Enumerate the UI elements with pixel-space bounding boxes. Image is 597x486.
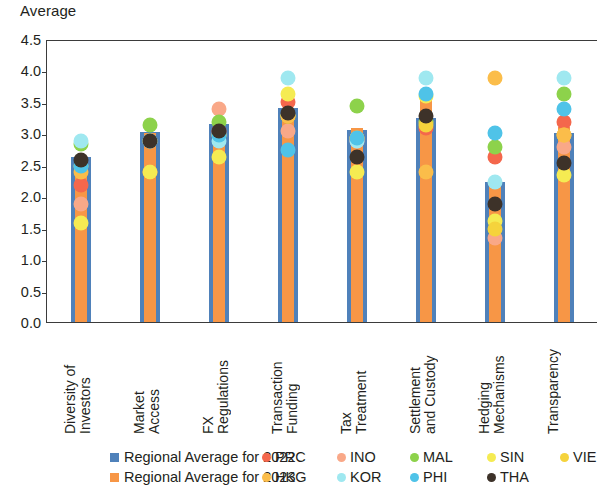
data-point-hkg — [556, 127, 571, 142]
data-point-tha — [74, 152, 89, 167]
y-axis-tick-label: 1.0 — [1, 252, 41, 268]
x-axis-category-label: FX Regulations — [201, 330, 231, 434]
legend-item-tha[interactable]: THA — [487, 469, 529, 485]
legend-item-kor[interactable]: KOR — [337, 469, 381, 485]
bar-regional-average-2023 — [144, 133, 156, 322]
legend-swatch-icon — [262, 473, 271, 482]
x-axis-category-label: Tax Treatment — [339, 330, 369, 434]
legend-item-label: MAL — [423, 449, 453, 465]
legend-swatch-icon — [487, 453, 496, 462]
y-axis-tick-mark — [42, 261, 47, 262]
legend-item-hkg[interactable]: HKG — [262, 469, 306, 485]
category-group — [185, 41, 254, 322]
y-axis-tick-mark — [42, 72, 47, 73]
data-point-sin — [281, 86, 296, 101]
y-axis-title: Average — [20, 2, 76, 19]
y-axis-tick-label: 0.0 — [1, 315, 41, 331]
y-axis-tick-label: 3.0 — [1, 126, 41, 142]
data-point-kor — [74, 133, 89, 148]
legend-item-label: SIN — [500, 449, 524, 465]
bar-regional-average-2023 — [282, 108, 294, 322]
y-axis-tick-label: 2.0 — [1, 189, 41, 205]
data-point-hkg — [487, 70, 502, 85]
data-point-tha — [212, 124, 227, 139]
legend-swatch-icon — [410, 473, 419, 482]
data-point-tha — [143, 133, 158, 148]
plot-inner — [47, 41, 597, 322]
data-point-mal — [349, 99, 364, 114]
category-group — [323, 41, 392, 322]
x-axis-category-label: Transaction Funding — [270, 330, 300, 434]
y-axis-tick-label: 0.5 — [1, 284, 41, 300]
data-point-phi — [418, 86, 433, 101]
plot-area — [46, 40, 597, 323]
y-axis-tick-label: 1.5 — [1, 221, 41, 237]
legend-item-vie[interactable]: VIE — [560, 449, 596, 465]
y-axis-tick-label: 4.5 — [1, 32, 41, 48]
y-axis-tick-mark — [42, 167, 47, 168]
legend-swatch-icon — [337, 473, 346, 482]
y-axis-tick-mark — [42, 198, 47, 199]
data-point-kor — [556, 70, 571, 85]
data-point-mal — [487, 140, 502, 155]
legend-item-sin[interactable]: SIN — [487, 449, 524, 465]
x-axis-category-label: Market Access — [132, 330, 162, 434]
legend-item-label: INO — [350, 449, 376, 465]
data-point-kor — [487, 174, 502, 189]
data-point-sin — [143, 165, 158, 180]
x-axis-category-label: Hedging Mechanisms — [477, 330, 507, 434]
data-point-hkg — [418, 165, 433, 180]
data-point-tha — [281, 105, 296, 120]
x-axis-category-label: Settlement and Custody — [408, 330, 438, 434]
data-point-ino — [281, 124, 296, 139]
y-axis-tick-mark — [42, 135, 47, 136]
data-point-tha — [556, 155, 571, 170]
legend-item-phi[interactable]: PHI — [410, 469, 447, 485]
data-point-tha — [349, 149, 364, 164]
legend-swatch-icon — [262, 453, 271, 462]
y-axis-tick-mark — [42, 104, 47, 105]
data-point-sin — [349, 165, 364, 180]
y-axis-tick-label: 2.5 — [1, 158, 41, 174]
legend-swatch-icon — [337, 453, 346, 462]
data-point-phi — [349, 130, 364, 145]
data-point-sin — [212, 149, 227, 164]
data-point-sin — [74, 215, 89, 230]
chart-legend: Regional Average for 2022PRCINOMALSINVIE… — [0, 447, 597, 486]
average-scores-bar-chart: Average Diversity of InvestorsMarket Acc… — [0, 0, 597, 486]
data-point-tha — [418, 108, 433, 123]
data-point-mal — [556, 86, 571, 101]
data-point-phi — [556, 102, 571, 117]
y-axis-tick-label: 4.0 — [1, 63, 41, 79]
data-point-mal — [143, 118, 158, 133]
data-point-ino — [74, 196, 89, 211]
category-group — [116, 41, 185, 322]
legend-item-label: VIE — [573, 449, 596, 465]
data-point-vie — [487, 221, 502, 236]
legend-item-label: HKG — [275, 469, 306, 485]
legend-swatch-icon — [487, 473, 496, 482]
y-axis-tick-mark — [42, 293, 47, 294]
data-point-kor — [281, 70, 296, 85]
data-point-phi — [487, 126, 502, 141]
x-axis-category-label: Diversity of Investors — [63, 330, 93, 434]
y-axis-tick-mark — [42, 230, 47, 231]
legend-item-ino[interactable]: INO — [337, 449, 376, 465]
legend-swatch-icon — [110, 473, 119, 482]
legend-swatch-icon — [110, 453, 119, 462]
legend-swatch-icon — [410, 453, 419, 462]
x-axis-category-label: Transparency — [546, 330, 561, 434]
legend-swatch-icon — [560, 453, 569, 462]
y-axis-tick-label: 3.5 — [1, 95, 41, 111]
data-point-kor — [418, 70, 433, 85]
legend-item-label: THA — [500, 469, 529, 485]
legend-item-mal[interactable]: MAL — [410, 449, 453, 465]
data-point-phi — [281, 143, 296, 158]
data-point-tha — [487, 196, 502, 211]
legend-item-label: PRC — [275, 449, 306, 465]
legend-item-prc[interactable]: PRC — [262, 449, 306, 465]
legend-item-label: KOR — [350, 469, 381, 485]
legend-item-label: PHI — [423, 469, 447, 485]
